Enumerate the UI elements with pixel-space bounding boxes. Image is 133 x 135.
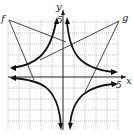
curves [10,17,118,130]
arrow-right-icon [111,69,118,75]
curve-lower-right [70,84,113,126]
x-axis-label: x [126,75,132,86]
graph: f g y x 5 5 [0,0,133,135]
y-tick-5: 5 [57,15,63,25]
curve-lower-left [12,78,61,126]
curve-upper-left [12,22,56,68]
arrow-left-icon [10,75,16,81]
line-segments [9,20,119,92]
y-axis-label: y [55,1,62,12]
x-tick-5: 5 [116,80,122,90]
arrow-up-icon [65,17,70,24]
segment-g-down [85,21,119,92]
label-f: f [0,13,7,24]
arrow-down-icon [58,123,63,130]
arrow-down-icon [68,123,73,130]
label-g: g [122,12,128,23]
